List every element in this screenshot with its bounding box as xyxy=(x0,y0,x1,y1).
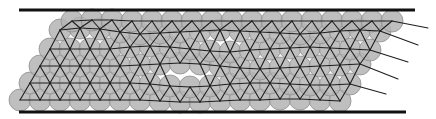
granular-packing-diagram xyxy=(0,0,436,119)
